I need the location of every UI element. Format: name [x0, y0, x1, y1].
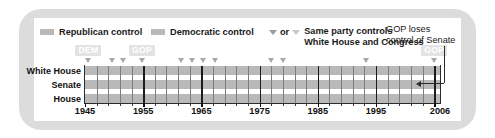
- gridline: [434, 66, 435, 103]
- axis-year-labels: 1945195519651975198519952006: [85, 106, 441, 120]
- gridline: [201, 66, 202, 103]
- gridline: [295, 66, 296, 103]
- same-party-marker-icon: [280, 58, 286, 63]
- legend-or-text: or: [280, 27, 289, 37]
- row-label-white-house: White House: [26, 66, 81, 76]
- gridline: [132, 66, 133, 103]
- gridline: [399, 66, 400, 103]
- gridline: [376, 66, 377, 103]
- gridline: [341, 66, 342, 103]
- same-party-marker-group: or: [269, 27, 300, 37]
- gridline: [178, 66, 179, 103]
- annotation-pointer-arrow-icon: [416, 81, 421, 87]
- gridline: [283, 66, 284, 103]
- gridline: [190, 66, 191, 103]
- chart-body: [85, 66, 440, 104]
- axis-year-label: 1945: [75, 106, 95, 116]
- legend: Republican control Democratic control or…: [34, 23, 461, 47]
- gridline: [236, 66, 237, 103]
- same-party-marker-icon: [120, 58, 126, 63]
- gridline: [143, 66, 144, 103]
- chart-right-rule: [440, 65, 441, 104]
- gridline: [120, 66, 121, 103]
- gridline: [353, 66, 354, 103]
- legend-item-democratic: Democratic control: [151, 27, 254, 37]
- row-label-senate: Senate: [51, 80, 81, 90]
- gridline: [155, 66, 156, 103]
- legend-label-democratic: Democratic control: [170, 27, 254, 37]
- row-label-house: House: [53, 94, 81, 104]
- democratic-swatch: [151, 29, 165, 35]
- gridline: [225, 66, 226, 103]
- annotation-pointer-horizontal: [420, 83, 444, 84]
- annotation-line2: control of Senate: [386, 35, 455, 46]
- gridline: [388, 66, 389, 103]
- triangle-light-icon: [292, 30, 300, 35]
- gridline: [260, 66, 261, 103]
- annotation-line1: GOP loses: [386, 24, 455, 35]
- annotation-text: GOP loses control of Senate: [386, 24, 455, 45]
- axis-year-label: 1975: [249, 106, 269, 116]
- legend-label-republican: Republican control: [59, 27, 142, 37]
- legend-item-republican: Republican control: [40, 27, 142, 37]
- row-labels: White House Senate House: [0, 66, 81, 104]
- party-box-gop: GOP: [129, 45, 155, 56]
- party-box-dem: DEM: [75, 45, 101, 56]
- gridline: [411, 66, 412, 103]
- same-party-marker-icon: [85, 58, 91, 63]
- same-party-marker-icon: [431, 58, 437, 63]
- gridline: [306, 66, 307, 103]
- axis-year-label: 1965: [191, 106, 211, 116]
- same-party-marker-icon: [189, 58, 195, 63]
- axis-year-label: 1955: [133, 106, 153, 116]
- same-party-marker-icon: [363, 58, 369, 63]
- republican-swatch: [40, 29, 54, 35]
- gridline: [166, 66, 167, 103]
- triangle-dark-icon: [269, 30, 277, 35]
- infographic-root: Republican control Democratic control or…: [0, 0, 495, 138]
- same-party-marker-icon: [178, 58, 184, 63]
- annotation-pointer-vertical: [444, 46, 445, 83]
- axis-year-label: 1985: [308, 106, 328, 116]
- same-party-marker-icon: [212, 58, 218, 63]
- gridline: [423, 66, 424, 103]
- gridline: [329, 66, 330, 103]
- axis-year-label: 1995: [366, 106, 386, 116]
- same-party-markers: [85, 58, 441, 66]
- gridline: [318, 66, 319, 103]
- same-party-marker-icon: [268, 58, 274, 63]
- same-party-marker-icon: [200, 58, 206, 63]
- gridline: [248, 66, 249, 103]
- same-party-marker-icon: [109, 58, 115, 63]
- gridline: [97, 66, 98, 103]
- gridline: [364, 66, 365, 103]
- axis-year-label: 2006: [430, 106, 450, 116]
- gridline: [213, 66, 214, 103]
- gridline: [271, 66, 272, 103]
- gridline: [108, 66, 109, 103]
- same-party-marker-icon: [139, 58, 145, 63]
